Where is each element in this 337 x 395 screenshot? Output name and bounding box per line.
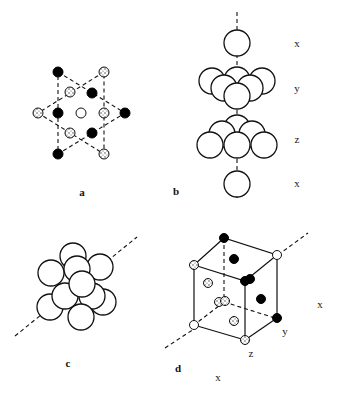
atom-layer-z — [197, 132, 223, 158]
white-atom — [273, 251, 282, 260]
panel-c-cluster: c — [15, 237, 137, 369]
hidden-edge-right — [224, 302, 275, 318]
speckled-atom — [99, 67, 109, 77]
black-atom-face — [230, 255, 239, 264]
black-atom — [246, 275, 255, 284]
speckled-atom-face — [230, 317, 239, 326]
black-atom — [220, 234, 229, 243]
speckled-atom — [241, 336, 250, 345]
white-atom — [76, 108, 86, 118]
cluster-atom — [69, 271, 95, 297]
cube-edge — [245, 318, 277, 340]
atom-layer-z — [251, 132, 277, 158]
black-atom — [87, 88, 97, 98]
panel-a-hexagram: a — [33, 67, 130, 198]
black-atom-face — [257, 295, 266, 304]
speckled-atom-face — [204, 279, 213, 288]
layer-label-x-bottom: x — [294, 177, 300, 189]
panel-label-d: d — [175, 362, 181, 374]
layer-label-x: x — [294, 37, 300, 49]
cluster-atom — [38, 260, 64, 286]
diagonal-axis-lower — [165, 329, 194, 348]
atom-layer-x-top — [224, 30, 250, 56]
layer-label-y: y — [294, 82, 300, 94]
black-atom — [53, 108, 63, 118]
diagonal-axis-upper — [278, 233, 308, 255]
speckled-atom — [221, 297, 230, 306]
speckled-atom — [65, 87, 75, 97]
black-atom — [87, 128, 97, 138]
speckled-atom — [33, 108, 43, 118]
atom-layer-y — [224, 83, 250, 109]
crystal-packing-figure: a x y z x b — [0, 0, 337, 395]
layer-label-z: z — [295, 133, 300, 145]
black-atom — [273, 314, 282, 323]
cube-edge — [194, 325, 245, 340]
speckled-atom — [99, 108, 109, 118]
panel-label-a: a — [79, 186, 85, 198]
axis-label-x-bottom: x — [215, 371, 221, 383]
cluster-atom — [68, 304, 94, 330]
axis-label-z: z — [249, 347, 254, 359]
black-atom — [120, 108, 130, 118]
panel-b-stacking: x y z x b — [173, 12, 300, 200]
axis-label-y: y — [282, 325, 288, 337]
speckled-atom — [99, 149, 109, 159]
black-atom — [53, 149, 63, 159]
axis-label-x-right: x — [317, 298, 323, 310]
panel-label-c: c — [66, 357, 71, 369]
speckled-atom — [65, 128, 75, 138]
triangle-black — [58, 72, 125, 154]
atom-layer-z — [224, 132, 250, 158]
triangle-speckled — [38, 72, 104, 154]
speckled-atom — [190, 261, 199, 270]
panel-label-b: b — [173, 185, 179, 197]
black-atom — [53, 67, 63, 77]
white-atom — [190, 321, 199, 330]
panel-d-unit-cell: y z x x d — [165, 233, 323, 383]
atom-layer-x-bottom — [224, 171, 250, 197]
